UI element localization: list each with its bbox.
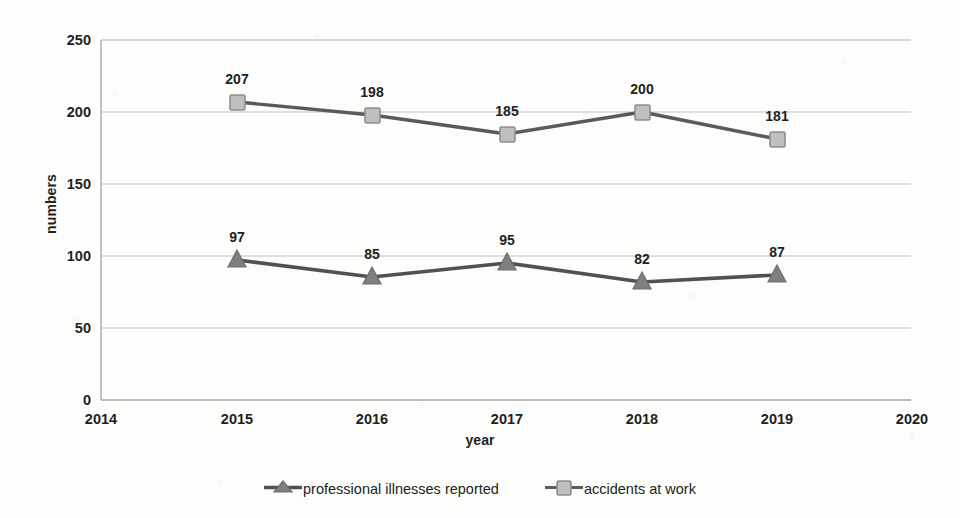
legend-label-accidents-at-work: accidents at work [584, 481, 696, 497]
gridlines [101, 40, 911, 400]
data-label-accidents-2018: 200 [612, 81, 672, 97]
x-tick-2018: 2018 [602, 411, 682, 427]
data-label-accidents-2017: 185 [477, 103, 537, 119]
x-tick-2017: 2017 [467, 411, 547, 427]
data-label-accidents-2015: 207 [207, 71, 267, 87]
x-tick-2016: 2016 [332, 411, 412, 427]
data-label-illnesses-2017: 95 [477, 232, 537, 248]
y-tick-50: 50 [31, 320, 91, 336]
data-label-illnesses-2019: 87 [747, 244, 807, 260]
chart-legend: professional illnesses reported accident… [0, 478, 960, 500]
data-label-accidents-2016: 198 [342, 84, 402, 100]
x-tick-2020: 2020 [872, 411, 952, 427]
x-axis-title: year [0, 432, 960, 448]
x-tick-2015: 2015 [197, 411, 277, 427]
y-tick-200: 200 [31, 104, 91, 120]
y-tick-100: 100 [31, 248, 91, 264]
triangle-marker-icon [264, 478, 302, 500]
data-label-accidents-2019: 181 [747, 108, 807, 124]
data-label-illnesses-2018: 82 [612, 251, 672, 267]
data-label-illnesses-2015: 97 [207, 229, 267, 245]
y-tick-0: 0 [31, 392, 91, 408]
legend-label-professional-illnesses: professional illnesses reported [303, 481, 499, 497]
y-tick-250: 250 [31, 32, 91, 48]
square-marker-icon [545, 478, 583, 500]
y-tick-150: 150 [31, 176, 91, 192]
line-chart: 250 200 150 100 50 0 numbers 2014 2015 2… [0, 0, 960, 518]
legend-item-accidents-at-work[interactable]: accidents at work [545, 478, 696, 500]
legend-item-professional-illnesses[interactable]: professional illnesses reported [264, 478, 499, 500]
data-label-illnesses-2016: 85 [342, 246, 402, 262]
y-axis-title: numbers [43, 144, 59, 264]
x-tick-2014: 2014 [61, 411, 141, 427]
x-tick-2019: 2019 [737, 411, 817, 427]
